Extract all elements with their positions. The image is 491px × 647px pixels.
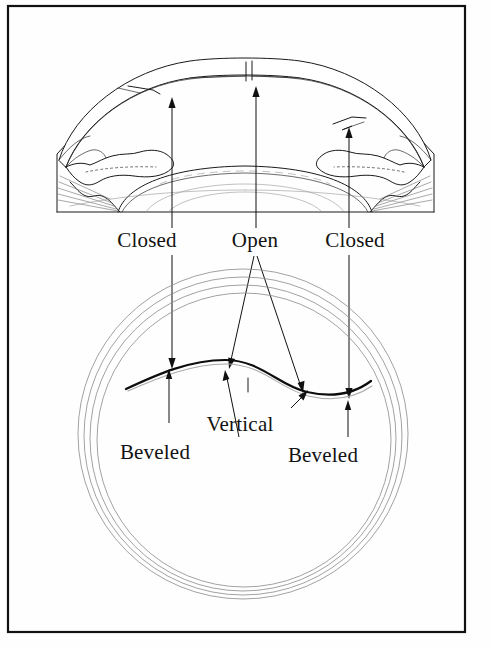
upward-arrow-group (168, 86, 352, 228)
label-vertical: Vertical (207, 412, 274, 436)
arrow-closed-right-branch (342, 126, 352, 130)
label-open: Open (232, 228, 279, 252)
label-beveled-left: Beveled (120, 440, 191, 464)
eye-cross-section (57, 58, 434, 212)
ciliary-body-right (370, 182, 420, 212)
iris-left-pigment (86, 167, 156, 172)
arrow-vertical-up-head (223, 370, 230, 381)
arrow-closed-left-down-head (168, 358, 175, 369)
lens-nucleus-ring-1 (146, 184, 344, 212)
lens-nucleus-ring-2 (168, 192, 322, 212)
cornea-outer-dome (59, 58, 431, 167)
figure-canvas: Closed Open Closed (0, 0, 491, 647)
label-closed-left: Closed (117, 228, 177, 252)
label-beveled-right: Beveled (288, 443, 359, 467)
limbus-ring-3 (90, 285, 396, 591)
arrow-closed-left-up-head (168, 97, 175, 108)
arrow-open-down-left (231, 256, 254, 360)
label-closed-right: Closed (325, 228, 385, 252)
arrow-open-down-right (257, 256, 300, 384)
limbus-ring-2 (84, 277, 402, 595)
arrow-beveled-right-up-head (345, 400, 351, 410)
downward-arrow-group (168, 255, 352, 399)
iris-right-pigment (334, 167, 404, 172)
figure-root: Closed Open Closed (0, 0, 491, 647)
ciliary-body-left (70, 182, 120, 212)
arrow-open-up-head (252, 86, 259, 97)
figure-border (8, 6, 465, 632)
